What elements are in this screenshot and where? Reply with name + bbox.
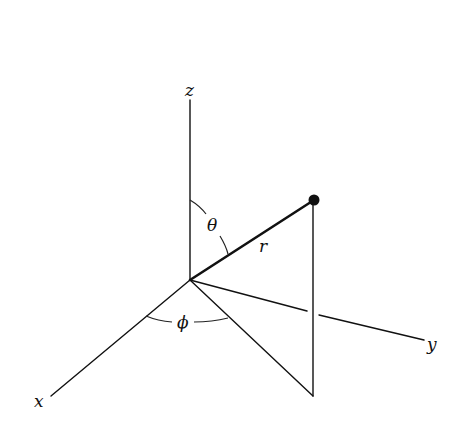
z-axis-label: z	[184, 80, 195, 100]
theta-arc-lower	[220, 236, 228, 254]
x-axis-label: x	[34, 391, 44, 411]
theta-arc-upper	[190, 200, 206, 214]
projection-line	[190, 280, 313, 396]
y-axis-segment-1	[190, 280, 307, 311]
phi-arc-left	[146, 316, 172, 322]
y-axis-label: y	[426, 334, 437, 354]
phi-label: ϕ	[177, 312, 189, 332]
theta-label: θ	[207, 215, 217, 235]
radius-vector	[190, 200, 314, 280]
phi-arc-right	[194, 318, 228, 322]
x-axis	[51, 280, 190, 396]
radius-label: r	[259, 236, 268, 256]
point-marker	[309, 195, 320, 206]
y-axis-segment-2	[319, 315, 424, 340]
spherical-coordinates-diagram: z x y r θ ϕ	[0, 0, 461, 430]
